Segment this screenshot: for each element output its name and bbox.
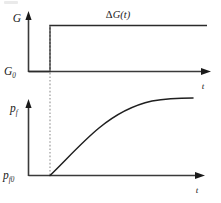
upper-y-axis-arrow-icon xyxy=(25,11,31,20)
upper-y-axis-label: G xyxy=(13,12,22,24)
saturation-response-curve xyxy=(50,98,193,176)
lower-y-axis-arrow-icon xyxy=(25,99,31,108)
lower-x-axis-label: t xyxy=(196,185,199,195)
lower-baseline-tick-label: pf0 xyxy=(2,169,15,184)
delta-g-curve-label: ΔG(t) xyxy=(106,9,131,21)
lower-y-axis-label: pf xyxy=(9,102,19,117)
upper-x-axis-label: t xyxy=(202,81,205,91)
scan-artifact-smudge xyxy=(4,1,18,4)
figure-container: G G0 ΔG(t) t pf xyxy=(0,0,221,203)
lower-y-axis-sub: f xyxy=(16,109,19,117)
lower-plot-group: pf pf0 t xyxy=(2,98,205,195)
upper-baseline-tick-sub: 0 xyxy=(12,72,16,80)
two-panel-step-response-diagram: G G0 ΔG(t) t pf xyxy=(0,0,221,203)
upper-plot-group: G G0 ΔG(t) t xyxy=(4,9,211,91)
step-function-curve xyxy=(29,26,208,72)
lower-baseline-tick-sub: f0 xyxy=(9,176,15,184)
upper-x-axis-arrow-icon xyxy=(201,68,211,75)
lower-x-axis-arrow-icon xyxy=(195,172,205,179)
delta-g-argument: (t) xyxy=(120,9,130,21)
upper-baseline-tick-label: G0 xyxy=(4,65,16,80)
